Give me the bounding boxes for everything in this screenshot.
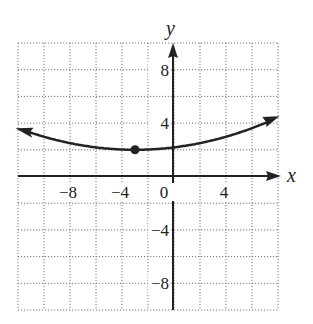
x-tick-label: 0 bbox=[160, 183, 169, 202]
y-tick-label: 8 bbox=[161, 61, 170, 80]
vertex-point bbox=[131, 145, 140, 154]
x-axis-label: x bbox=[286, 164, 296, 186]
curve bbox=[15, 116, 279, 154]
right-arrow-icon bbox=[262, 116, 279, 127]
y-tick-label: −8 bbox=[151, 274, 169, 293]
x-axis-arrow-icon bbox=[266, 171, 281, 181]
parabola-graph: x y −8−40484−4−8 bbox=[0, 0, 313, 324]
x-tick-label: 4 bbox=[220, 183, 229, 202]
x-tick-label: −4 bbox=[111, 183, 130, 202]
x-tick-label: −8 bbox=[59, 183, 77, 202]
y-tick-label: −4 bbox=[151, 221, 170, 240]
y-axis-label: y bbox=[164, 17, 175, 40]
y-tick-label: 4 bbox=[161, 114, 170, 133]
y-axis-arrow-icon bbox=[168, 43, 178, 58]
